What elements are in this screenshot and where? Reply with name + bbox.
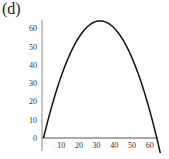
y-tick-label: 60: [29, 24, 37, 33]
y-tick-label: 50: [29, 43, 37, 52]
parabola-chart: 0102030405060102030405060: [0, 0, 169, 159]
y-tick-label: 0: [33, 134, 37, 143]
x-tick-label: 60: [146, 141, 154, 150]
y-tick-label: 20: [29, 97, 37, 106]
y-tick-label: 10: [29, 116, 37, 125]
y-tick-label: 40: [29, 61, 37, 70]
x-tick-label: 40: [110, 141, 118, 150]
parabola-curve: [44, 21, 161, 153]
x-tick-label: 30: [93, 141, 101, 150]
x-tick-label: 20: [75, 141, 83, 150]
x-tick-label: 10: [57, 141, 65, 150]
y-tick-label: 30: [29, 79, 37, 88]
x-tick-label: 50: [128, 141, 136, 150]
